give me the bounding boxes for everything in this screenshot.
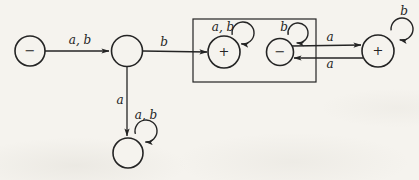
- transition-label-s1-s5: a: [116, 93, 123, 107]
- state-sign-s2: +: [219, 44, 230, 59]
- self-loop-s5-s5: [135, 120, 157, 142]
- transition-label-s1-s2: b: [160, 35, 168, 49]
- transition-arrow-s3-s4: [292, 45, 361, 46]
- self-loop-s3-s3: [288, 23, 308, 43]
- state-sign-s4: +: [373, 43, 384, 58]
- self-loop-label-s2-s2: a, b: [212, 20, 234, 34]
- self-loop-label-s4-s4: b: [400, 4, 408, 18]
- transition-label-s3-s4: a: [326, 30, 333, 44]
- self-loop-s4-s4: [391, 18, 413, 40]
- automaton-figure: −+−+a, bbaaaa, bbba, b: [0, 0, 419, 180]
- transition-arrow-s1-s2: [143, 51, 207, 52]
- state-circle-s1: [112, 36, 143, 67]
- state-circle-s5: [113, 138, 143, 168]
- transition-label-s4-s3: a: [326, 57, 333, 71]
- state-sign-s3: −: [275, 44, 286, 59]
- self-loop-label-s5-s5: a, b: [135, 108, 157, 122]
- transition-label-s0-s1: a, b: [69, 33, 91, 47]
- automaton-canvas: −+−+a, bbaaaa, bbba, b: [0, 0, 419, 180]
- state-sign-s0: −: [25, 43, 36, 58]
- self-loop-label-s3-s3: b: [280, 20, 288, 34]
